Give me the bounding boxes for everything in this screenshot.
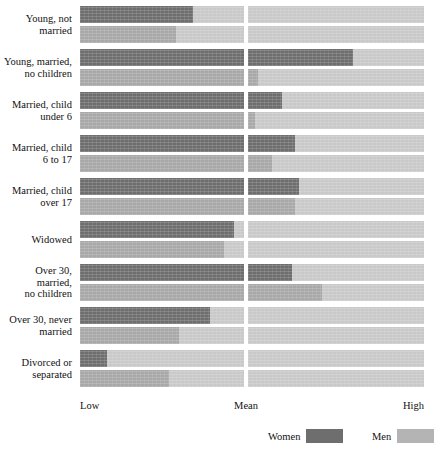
- bar-men: [80, 370, 424, 387]
- bar-track-right: [248, 155, 424, 172]
- bar-fill-men: [248, 155, 272, 172]
- bar-track-left: [80, 92, 244, 109]
- bar-fill-men: [80, 69, 244, 86]
- legend-label-men: Men: [372, 431, 391, 442]
- bar-men: [80, 198, 424, 215]
- bar-track-right: [248, 6, 424, 23]
- bar-track-left: [80, 307, 244, 324]
- bar-fill-men: [80, 112, 244, 129]
- bar-fill-women: [248, 92, 282, 109]
- bar-track-right: [248, 264, 424, 281]
- category-label-line: married,: [0, 277, 72, 289]
- bar-track-right: [248, 69, 424, 86]
- category-label-line: under 6: [0, 111, 72, 123]
- legend-swatch-women: [306, 429, 343, 443]
- bar-track-right: [248, 49, 424, 66]
- plot-area: [80, 6, 424, 396]
- bar-men: [80, 112, 424, 129]
- axis-tick-high: High: [403, 400, 424, 411]
- category-label-line: Married, child: [0, 142, 72, 154]
- bar-track-right: [248, 221, 424, 238]
- category-label: Young, notmarried: [0, 13, 72, 36]
- bar-fill-women: [248, 264, 292, 281]
- category-label: Young, married,no children: [0, 56, 72, 79]
- category-label-line: no children: [0, 68, 72, 80]
- bar-fill-women: [80, 307, 210, 324]
- bar-track-right: [248, 307, 424, 324]
- bar-fill-men: [80, 284, 244, 301]
- bar-track-right: [248, 350, 424, 367]
- bar-fill-men: [80, 241, 224, 258]
- bar-group: [80, 135, 424, 172]
- bar-track-right: [248, 178, 424, 195]
- bar-men: [80, 241, 424, 258]
- bar-men: [80, 284, 424, 301]
- bar-track-left: [80, 327, 244, 344]
- bar-men: [80, 155, 424, 172]
- bar-group: [80, 92, 424, 129]
- axis-tick-mean: Mean: [234, 400, 258, 411]
- bar-track-left: [80, 135, 244, 152]
- category-label: Married, childunder 6: [0, 99, 72, 122]
- bar-track-right: [248, 284, 424, 301]
- bar-fill-men: [248, 112, 255, 129]
- legend-item-women: Women: [268, 428, 343, 444]
- bar-fill-men: [248, 198, 295, 215]
- category-label-line: 6 to 17: [0, 154, 72, 166]
- category-label: Divorced orseparated: [0, 357, 72, 380]
- bar-track-left: [80, 6, 244, 23]
- bar-women: [80, 178, 424, 195]
- bar-fill-women: [80, 264, 244, 281]
- bar-fill-women: [80, 92, 244, 109]
- bar-track-right: [248, 241, 424, 258]
- category-label-line: Divorced or: [0, 357, 72, 369]
- bar-track-left: [80, 264, 244, 281]
- bar-track-left: [80, 370, 244, 387]
- bar-fill-women: [80, 350, 107, 367]
- bar-track-left: [80, 198, 244, 215]
- bar-track-left: [80, 26, 244, 43]
- category-label-line: Widowed: [0, 234, 72, 246]
- category-label-line: married: [0, 25, 72, 37]
- bar-women: [80, 135, 424, 152]
- bar-women: [80, 49, 424, 66]
- legend-label-women: Women: [268, 431, 300, 442]
- category-label: Widowed: [0, 234, 72, 246]
- bar-fill-men: [248, 284, 322, 301]
- bar-track-left: [80, 49, 244, 66]
- category-label-line: Married, child: [0, 185, 72, 197]
- figure-root: Low Mean High Women Men Young, notmarrie…: [0, 0, 439, 452]
- bar-men: [80, 69, 424, 86]
- bar-fill-men: [80, 327, 179, 344]
- bar-track-left: [80, 178, 244, 195]
- category-label: Over 30,married,no children: [0, 265, 72, 300]
- legend-swatch-men: [397, 429, 434, 443]
- bar-women: [80, 92, 424, 109]
- bar-track-left: [80, 112, 244, 129]
- category-label: Over 30, nevermarried: [0, 314, 72, 337]
- category-label-line: Young, married,: [0, 56, 72, 68]
- bar-fill-men: [80, 26, 176, 43]
- category-label-line: Married, child: [0, 99, 72, 111]
- bar-track-left: [80, 155, 244, 172]
- bar-fill-men: [80, 155, 244, 172]
- bar-men: [80, 327, 424, 344]
- bar-group: [80, 178, 424, 215]
- category-label-line: separated: [0, 369, 72, 381]
- bar-fill-women: [80, 6, 193, 23]
- axis-tick-low: Low: [80, 400, 99, 411]
- category-label: Married, child6 to 17: [0, 142, 72, 165]
- bar-fill-women: [248, 49, 353, 66]
- category-label-line: over 17: [0, 197, 72, 209]
- chart-legend: Women Men: [268, 428, 439, 448]
- bar-fill-men: [80, 198, 244, 215]
- bar-fill-women: [80, 178, 244, 195]
- bar-track-left: [80, 284, 244, 301]
- bar-women: [80, 307, 424, 324]
- category-label-line: Over 30, never: [0, 314, 72, 326]
- bar-women: [80, 264, 424, 281]
- bar-track-right: [248, 135, 424, 152]
- bar-women: [80, 350, 424, 367]
- bar-group: [80, 6, 424, 43]
- bar-fill-men: [80, 370, 169, 387]
